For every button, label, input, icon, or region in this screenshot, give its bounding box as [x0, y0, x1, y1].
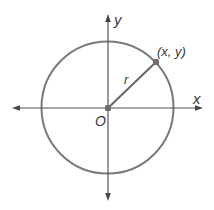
x-axis-left-arrow-icon — [12, 105, 20, 111]
origin-label: O — [95, 113, 106, 129]
point-label: (x, y) — [157, 44, 186, 59]
y-axis-up-arrow-icon — [105, 14, 111, 22]
origin-point — [105, 105, 111, 111]
y-axis-down-arrow-icon — [105, 193, 111, 201]
radius-segment — [108, 62, 156, 108]
x-axis-label: x — [192, 90, 201, 107]
radius-label: r — [124, 72, 129, 87]
circle-point — [153, 59, 159, 65]
unit-circle-diagram: y x O r (x, y) — [0, 0, 214, 210]
y-axis-label: y — [113, 11, 123, 28]
